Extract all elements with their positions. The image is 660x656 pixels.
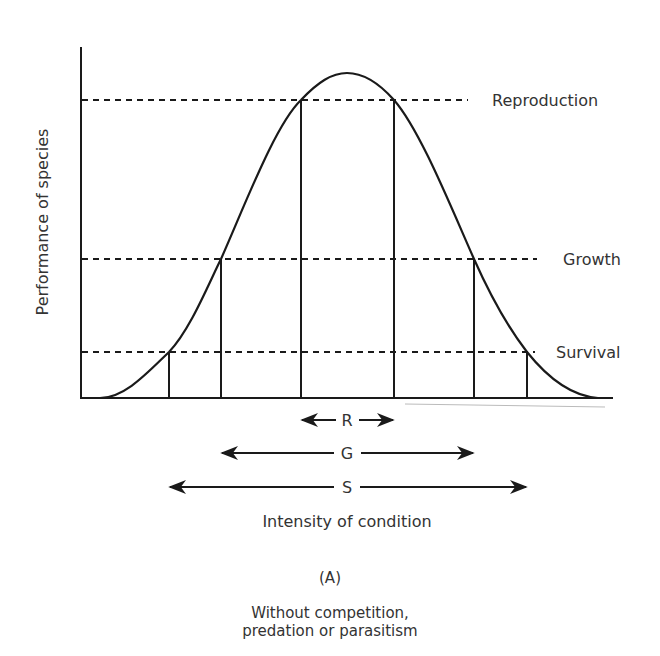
reproduction-label: Reproduction	[492, 91, 598, 110]
survival-range-letter: S	[342, 478, 352, 497]
caption-line-1: Without competition,	[0, 604, 660, 622]
growth-range-letter: G	[341, 444, 353, 463]
performance-bell-curve	[100, 73, 598, 398]
x-axis-faint-underline	[405, 404, 605, 407]
caption-line-2: predation or parasitism	[0, 622, 660, 640]
panel-label: (A)	[0, 569, 660, 587]
y-axis-label: Performance of species	[33, 129, 52, 316]
survival-label: Survival	[556, 343, 621, 362]
x-axis-label: Intensity of condition	[262, 512, 431, 531]
reproduction-range-letter: R	[341, 411, 352, 430]
growth-label: Growth	[563, 250, 621, 269]
tolerance-curve-diagram: Reproduction Growth Survival Performance…	[0, 0, 660, 656]
